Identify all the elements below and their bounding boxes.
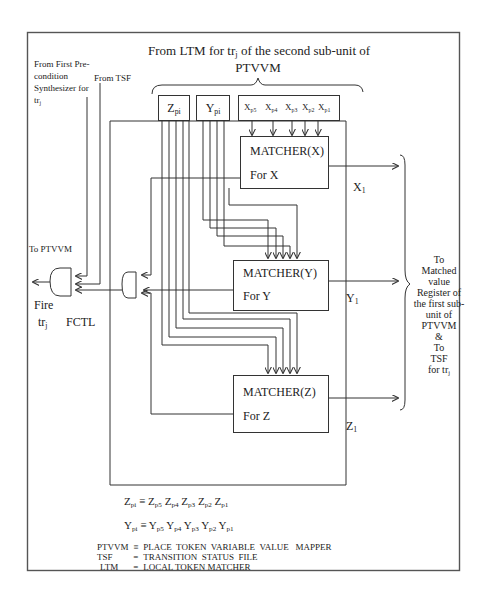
and-gate-small [122,272,136,298]
title-text-1: From LTM for tr [148,43,235,58]
x-bit-label: Xp5 [244,103,256,114]
y-base: Y [206,101,215,115]
y1-sub: 1 [355,297,359,306]
legend-full: LOCAL TOKEN MATCHER [143,562,250,572]
legend-row: TSF =TRANSITION STATUS FILE [97,552,332,562]
precondition-line-2: condition [34,70,90,82]
legend-abbr: LTM [97,562,131,572]
right-line: PTVVM [404,320,474,331]
eq-term: Y [184,519,192,531]
right-line: & [404,331,474,342]
eq-term: Y [201,519,209,531]
right-line: To [404,342,474,353]
top-brace-shape [152,78,363,94]
x1-base: X [353,180,362,194]
eq-term-sub: p4 [174,525,181,533]
z-base: Z [167,101,174,115]
inner-enclosure [110,121,346,485]
fire-tr-label: trj [38,316,48,330]
eq-term-sub: p4 [171,501,178,509]
legend-eq: = [133,562,143,572]
right-line: TSF [404,353,474,364]
title-text-2: of the second sub-unit of [238,43,371,58]
matcher-z-subtitle: For Z [243,410,270,422]
x-bit-sub: p3 [292,107,298,113]
eq-term: Z [148,495,155,507]
eq-term: Y [219,519,227,531]
right-line: value [404,276,474,287]
eq-term: Z [181,495,188,507]
eq-term-sub: p3 [192,525,199,533]
matcher-z-output: Z1 [346,420,357,434]
right-last-sub: j [448,369,450,376]
eq-lhs-sub: pi [132,525,138,533]
label-from-tsf: From TSF [94,74,131,83]
eq-lhs: Z [124,495,131,507]
x-bit-label: Xp2 [302,103,314,114]
legend-abbr: TSF [97,552,131,562]
right-line: Register of [404,287,474,298]
eq-term-sub: p5 [157,525,164,533]
right-output-text: To Matched value Register of the first s… [404,254,474,378]
eq-term: Y [149,519,157,531]
x-bit-label: Xp3 [285,103,297,114]
legend-full: TRANSITION STATUS FILE [143,552,257,562]
x-bit-sub: p1 [325,107,331,113]
z-register-label: Zpi [158,102,190,116]
matcher-y-title: MATCHER(Y) [243,267,317,279]
legend-full: PLACE TOKEN VARIABLE VALUE MAPPER [143,542,331,552]
eq-term-sub: p3 [188,501,195,509]
legend: PTVVM ≡PLACE TOKEN VARIABLE VALUE MAPPER… [97,542,332,572]
y1-base: Y [346,291,355,305]
y-register-label: Ypi [196,102,230,116]
eq-lhs: Y [124,519,132,531]
right-line: Matched [404,265,474,276]
equation-z: Zpi ≡ Zp5 Zp4 Zp3 Zp2 Zp1 [124,496,228,509]
precondition-line-1: From First Pre- [34,58,90,70]
figure-title: From LTM for trj of the second sub-unit … [148,44,368,58]
legend-eq: ≡ [133,542,143,552]
equation-y: Ypi ≡ Yp5 Yp4 Yp3 Yp2 Yp1 [124,520,234,533]
eq-term-sub: p1 [221,501,228,509]
matcher-x-subtitle: For X [250,169,278,181]
legend-eq: = [133,552,143,562]
x-bit-sub: p2 [309,107,315,113]
eq-term-sub: p2 [209,525,216,533]
eq-term-sub: p1 [227,525,234,533]
right-line: the first sub- [404,298,474,309]
fire-label: Fire [34,299,53,311]
right-line: To [404,254,474,265]
right-line-last: for trj [404,364,474,378]
fire-tr-sub: j [45,321,47,330]
precondition-sub: j [40,100,42,106]
x-bit-sub: p5 [251,107,257,113]
eq-sign: ≡ [139,495,145,507]
matcher-y-output: Y1 [346,292,359,306]
matcher-x-title: MATCHER(X) [250,145,324,157]
legend-row: LTM =LOCAL TOKEN MATCHER [97,562,332,572]
eq-lhs-sub: pi [131,501,137,509]
eq-sign: ≡ [140,519,146,531]
legend-row: PTVVM ≡PLACE TOKEN VARIABLE VALUE MAPPER [97,542,332,552]
figure-title-line2: PTVVM [148,61,368,74]
z-sub: pi [175,107,181,116]
and-gate-fctl [50,268,71,296]
x1-sub: 1 [362,186,366,195]
precondition-line-3: Synthesizer for [34,82,90,94]
right-line: unit of [404,309,474,320]
x-bit-label: Xp1 [318,103,330,114]
right-last-text: for tr [428,364,448,375]
eq-term: Z [198,495,205,507]
matcher-z-title: MATCHER(Z) [243,386,316,398]
fctl-label: FCTL [66,316,95,328]
z1-sub: 1 [353,425,357,434]
precondition-line-4: trj [34,94,90,109]
y-sub: pi [214,107,220,116]
x-bit-sub: p4 [272,107,278,113]
x-bit-label: Xp4 [265,103,277,114]
matcher-x-output: X1 [353,181,366,195]
label-from-precondition: From First Pre- condition Synthesizer fo… [34,58,90,109]
matcher-y-subtitle: For Y [243,290,271,302]
label-to-ptvvm: To PTVVM [29,245,72,254]
eq-term-sub: p5 [155,501,162,509]
